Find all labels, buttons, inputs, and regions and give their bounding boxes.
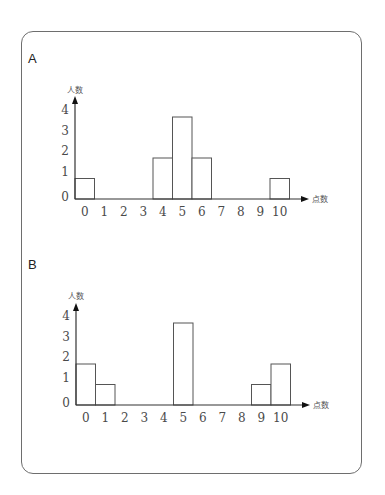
x-tick-label: 10	[273, 411, 288, 425]
x-tick-label: 1	[101, 411, 109, 425]
bar-10	[271, 364, 291, 405]
x-tick-label: 5	[179, 411, 187, 425]
bar-0	[76, 364, 96, 405]
x-tick-label: 4	[160, 411, 168, 425]
y-tick-label: 2	[62, 350, 70, 364]
histogram-b: 01234012345678910人数点数	[0, 0, 385, 440]
bar-9	[252, 385, 272, 406]
bar-5	[174, 323, 194, 405]
x-tick-label: 3	[140, 411, 148, 425]
bar-1	[96, 385, 116, 406]
x-tick-label: 6	[199, 411, 207, 425]
x-tick-label: 8	[238, 411, 246, 425]
x-tick-label: 7	[218, 411, 226, 425]
x-axis-title: 点数	[313, 400, 329, 410]
y-axis-arrow-icon	[73, 303, 79, 311]
x-axis-arrow-icon	[302, 402, 310, 408]
y-axis-title: 人数	[68, 291, 84, 301]
x-tick-label: 2	[121, 411, 129, 425]
x-tick-label: 0	[82, 411, 90, 425]
y-tick-label: 4	[62, 309, 70, 323]
y-tick-label: 3	[62, 330, 70, 344]
y-tick-label: 0	[62, 396, 70, 410]
y-tick-label: 1	[62, 371, 70, 385]
x-tick-label: 9	[257, 411, 265, 425]
